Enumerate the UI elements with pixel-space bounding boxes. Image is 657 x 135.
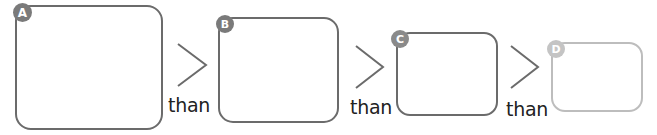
box-c	[396, 32, 498, 116]
than-label: than	[506, 100, 548, 119]
greater-than-icon	[508, 44, 541, 90]
badge-a: A	[13, 3, 32, 22]
greater-than-icon	[175, 42, 209, 88]
greater-than-icon	[353, 44, 386, 90]
badge-c-label: C	[396, 33, 404, 46]
badge-a-label: A	[18, 6, 27, 20]
badge-d: D	[547, 40, 565, 58]
than-label: than	[168, 96, 210, 115]
box-b	[218, 17, 339, 123]
badge-b-label: B	[221, 18, 229, 31]
badge-c: C	[391, 30, 409, 48]
box-a	[15, 5, 163, 130]
badge-d-label: D	[551, 43, 560, 56]
badge-b: B	[216, 15, 234, 33]
than-label: than	[350, 98, 392, 117]
box-d	[551, 42, 643, 112]
